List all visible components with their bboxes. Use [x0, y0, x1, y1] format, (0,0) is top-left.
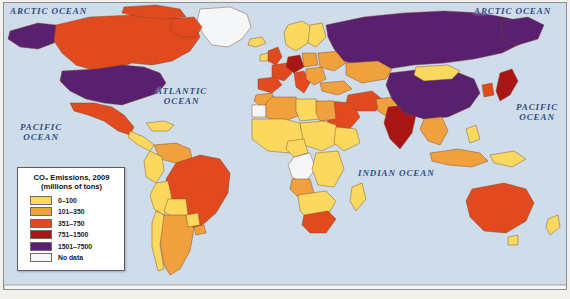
country-dr-congo	[288, 153, 316, 183]
region-southeast-asia	[420, 117, 448, 145]
legend-swatch-3	[30, 230, 52, 239]
country-uruguay	[194, 225, 206, 235]
legend-label-5: No data	[58, 254, 83, 261]
region-caribbean	[146, 121, 174, 131]
map-plate: ARCTIC OCEAN ARCTIC OCEAN ATLANTIC OCEAN…	[3, 2, 567, 290]
country-united-kingdom	[268, 47, 282, 65]
region-central-america	[128, 131, 154, 151]
country-australia	[466, 183, 534, 233]
region-horn-of-africa	[334, 127, 360, 151]
legend-row[interactable]: 0–100	[30, 196, 119, 205]
country-indonesia	[430, 149, 488, 167]
country-united-states	[60, 65, 166, 105]
island-new-guinea	[490, 151, 526, 167]
legend-label-1: 101–350	[58, 208, 84, 215]
country-norway-sweden	[284, 21, 312, 51]
legend-row[interactable]: No data	[30, 253, 119, 262]
country-western-sahara	[252, 105, 266, 117]
country-japan	[496, 69, 518, 101]
legend-label-4: 1501–7500	[58, 243, 92, 250]
legend-swatch-4	[30, 242, 52, 251]
country-russia-far-east	[502, 17, 544, 45]
legend-row[interactable]: 351–750	[30, 219, 119, 228]
country-ireland	[260, 53, 268, 61]
world-map-figure: ARCTIC OCEAN ARCTIC OCEAN ATLANTIC OCEAN…	[0, 0, 570, 299]
legend-swatch-5	[30, 253, 52, 262]
island-tasmania	[508, 235, 518, 245]
legend-row[interactable]: 1501–7500	[30, 242, 119, 251]
continent-antarctica	[4, 285, 567, 290]
legend-title: CO₂ Emissions, 2009 (millions of tons)	[24, 173, 119, 192]
legend-label-3: 751–1500	[58, 231, 88, 238]
country-iceland	[248, 37, 266, 47]
country-russia	[326, 11, 528, 69]
region-east-africa	[312, 151, 344, 187]
country-greenland	[197, 7, 251, 47]
country-poland	[302, 53, 318, 67]
country-spain	[258, 77, 282, 93]
country-finland	[308, 23, 326, 47]
country-paraguay	[186, 213, 200, 227]
legend-row[interactable]: 101–350	[30, 207, 119, 216]
legend-swatch-2	[30, 219, 52, 228]
legend-swatch-0	[30, 196, 52, 205]
map-legend: CO₂ Emissions, 2009 (millions of tons) 0…	[17, 167, 125, 271]
country-philippines	[466, 125, 480, 143]
country-mexico	[70, 103, 134, 135]
country-bolivia	[164, 199, 188, 217]
country-new-zealand	[546, 215, 560, 235]
legend-swatch-1	[30, 207, 52, 216]
country-alaska	[8, 23, 62, 49]
country-south-africa	[302, 211, 336, 233]
country-egypt	[316, 101, 336, 121]
legend-label-2: 351–750	[58, 220, 84, 227]
country-turkey	[320, 81, 352, 95]
country-south-korea	[482, 83, 494, 97]
legend-label-0: 0–100	[58, 197, 77, 204]
country-madagascar	[350, 183, 366, 211]
legend-row[interactable]: 751–1500	[30, 230, 119, 239]
